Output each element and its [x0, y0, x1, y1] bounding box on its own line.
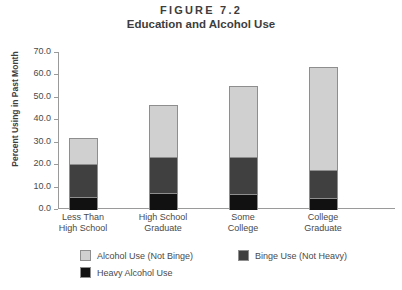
bar-segment: [69, 197, 98, 210]
legend-swatch: [238, 250, 249, 261]
legend-row: Heavy Alcohol Use: [80, 267, 380, 282]
legend-label: Binge Use (Not Heavy): [255, 251, 347, 261]
bar-stack: [149, 105, 178, 209]
legend-label: Alcohol Use (Not Binge): [97, 251, 193, 261]
y-axis-tick: 70.0: [0, 52, 58, 53]
x-axis-label: High SchoolGraduate: [120, 212, 206, 234]
tick-label: 40.0: [33, 113, 51, 123]
legend-swatch: [80, 250, 91, 261]
figure-subtitle: Education and Alcohol Use: [0, 18, 402, 30]
legend-swatch: [80, 267, 91, 278]
x-axis-label: Less ThanHigh School: [40, 212, 126, 234]
x-axis-label-line: Graduate: [280, 223, 366, 234]
tick-label: 60.0: [33, 68, 51, 78]
tick-label: 10.0: [33, 181, 51, 191]
bar-segment: [229, 194, 258, 210]
bar-segment: [149, 193, 178, 210]
bar-segment: [149, 105, 178, 158]
bar-stack: [229, 86, 258, 209]
legend-entry: Alcohol Use (Not Binge): [80, 250, 193, 261]
plot-area: [58, 52, 395, 209]
bar-segment: [69, 164, 98, 198]
tick-label: 70.0: [33, 46, 51, 56]
x-axis-label-line: Graduate: [120, 223, 206, 234]
bar-segment: [229, 157, 258, 195]
legend-entry: Heavy Alcohol Use: [80, 267, 173, 278]
y-axis-label: Percent Using in Past Month: [10, 14, 20, 204]
x-axis-label-line: College: [280, 212, 366, 223]
tick-label: 20.0: [33, 158, 51, 168]
legend-row: Alcohol Use (Not Binge)Binge Use (Not He…: [80, 250, 380, 265]
bar-segment: [309, 67, 338, 170]
x-axis-label-line: High School: [120, 212, 206, 223]
x-axis-label: CollegeGraduate: [280, 212, 366, 234]
x-axis-label-line: High School: [40, 223, 126, 234]
bar-segment: [149, 157, 178, 194]
y-axis-tick: 50.0: [0, 97, 58, 98]
x-axis-label: SomeCollege: [200, 212, 286, 234]
bar-stack: [69, 138, 98, 209]
y-axis-tick: 30.0: [0, 142, 58, 143]
y-axis-tick: 60.0: [0, 74, 58, 75]
bar-segment: [309, 198, 338, 210]
legend-entry: Binge Use (Not Heavy): [238, 250, 347, 261]
bar-segment: [69, 138, 98, 165]
y-axis-tick: 0.0: [0, 209, 58, 210]
x-axis-label-line: Less Than: [40, 212, 126, 223]
y-axis-tick: 20.0: [0, 164, 58, 165]
bar-stack: [309, 67, 338, 209]
tick-label: 50.0: [33, 91, 51, 101]
y-axis-tick: 10.0: [0, 187, 58, 188]
tick-label: 30.0: [33, 136, 51, 146]
y-axis-tick: 40.0: [0, 119, 58, 120]
legend-label: Heavy Alcohol Use: [97, 268, 173, 278]
x-axis-label-line: Some: [200, 212, 286, 223]
tick-mark: [54, 209, 58, 210]
bar-segment: [309, 170, 338, 199]
x-axis-label-line: College: [200, 223, 286, 234]
bar-segment: [229, 86, 258, 158]
figure-title: FIGURE 7.2: [0, 4, 402, 16]
